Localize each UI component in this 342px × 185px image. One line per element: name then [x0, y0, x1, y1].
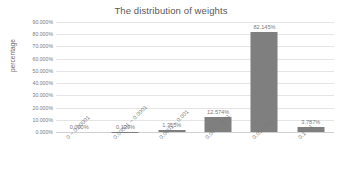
bar[interactable] [251, 32, 278, 132]
y-axis-tick-label: 50.000% [33, 68, 53, 74]
bar-slot: 1.355% [149, 22, 195, 132]
chart-title: The distribution of weights [0, 5, 342, 16]
y-axis-tick-label: 90.000% [33, 19, 53, 25]
bar-slot: 0.000% [56, 22, 102, 132]
y-axis-tick-label: 10.000% [33, 117, 53, 123]
bar-slot: 12.574% [195, 22, 241, 132]
y-axis-tick-label: 70.000% [33, 43, 53, 49]
bar-slot: 0.139% [102, 22, 148, 132]
y-axis-tick-label: 80.000% [33, 31, 53, 37]
bar-slot: 82.145% [241, 22, 287, 132]
y-axis-title: percentage [9, 26, 16, 86]
y-axis-tick-label: 0.000% [35, 129, 53, 135]
y-axis-tick-label: 60.000% [33, 56, 53, 62]
bar-chart: The distribution of weights percentage 0… [0, 0, 342, 185]
bar-slot: 3.787% [288, 22, 334, 132]
bar-value-label: 82.145% [253, 24, 275, 30]
plot-area: 0.000%10.000%20.000%30.000%40.000%50.000… [56, 22, 334, 132]
y-axis-tick-label: 30.000% [33, 92, 53, 98]
gridline [56, 132, 334, 133]
y-axis-tick-label: 40.000% [33, 80, 53, 86]
y-axis-tick-label: 20.000% [33, 105, 53, 111]
